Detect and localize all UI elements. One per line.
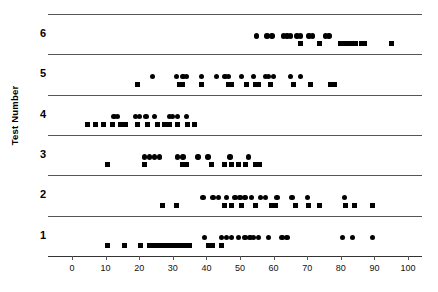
x-axis-tick-label: 40 [191,263,221,273]
data-point-circle [289,195,294,200]
plot-area: 654321 [48,14,422,256]
data-point-circle [342,195,347,200]
data-point-square [192,122,197,127]
x-axis-tick [374,256,375,260]
data-point-circle [227,154,232,159]
x-axis-tick [341,256,342,260]
data-point-square [362,41,367,46]
x-axis-tick [408,256,409,260]
data-point-square [298,41,303,46]
data-point-circle [288,74,293,79]
x-axis-tick-label: 0 [57,263,87,273]
data-point-square [199,82,204,87]
data-point-square [236,162,241,167]
data-point-square [243,162,248,167]
x-axis-tick [139,256,140,260]
data-point-circle [152,114,157,119]
data-point-square [85,122,90,127]
y-axis-tick-label-1: 1 [32,229,46,241]
data-point-square [160,203,165,208]
data-point-square [222,162,227,167]
data-point-square [389,41,394,46]
data-point-square [187,243,192,248]
data-point-circle [251,74,256,79]
data-point-circle [143,114,148,119]
data-point-circle [214,74,219,79]
data-point-circle [310,33,315,38]
band-row-2: 2 [48,175,422,215]
data-point-square [210,243,215,248]
data-point-circle [340,235,345,240]
data-point-circle [370,235,375,240]
band-row-6: 6 [48,14,422,54]
data-point-square [219,243,224,248]
data-point-circle [266,235,271,240]
data-point-circle [326,33,331,38]
data-point-square [105,243,110,248]
data-point-circle [254,33,259,38]
data-point-circle [236,235,241,240]
band-row-4: 4 [48,95,422,135]
y-axis-tick-label-5: 5 [32,67,46,79]
data-point-square [167,122,172,127]
x-axis-tick-label: 80 [326,263,356,273]
data-point-square [101,122,106,127]
data-point-circle [174,74,179,79]
data-point-square [253,203,258,208]
data-point-circle [224,195,229,200]
data-point-square [293,203,298,208]
data-point-square [174,203,179,208]
y-axis-title: Test Number [9,76,20,156]
data-point-circle [271,74,276,79]
data-point-circle [200,195,205,200]
data-point-square [257,162,262,167]
data-point-circle [226,74,231,79]
data-point-square [317,203,322,208]
data-point-square [308,82,313,87]
data-point-circle [246,154,251,159]
x-axis-tick [274,256,275,260]
data-point-square [244,82,249,87]
data-point-circle [229,235,234,240]
data-point-square [145,122,150,127]
x-axis-tick-label: 50 [225,263,255,273]
x-axis-tick [240,256,241,260]
data-point-circle [256,235,261,240]
data-point-square [229,82,234,87]
data-point-square [222,203,227,208]
band-row-1: 1 [48,216,422,256]
data-point-square [352,203,357,208]
x-axis-tick-label: 10 [91,263,121,273]
data-point-square [343,203,348,208]
data-point-square [180,82,185,87]
data-point-square [135,82,140,87]
data-point-square [291,82,296,87]
data-point-circle [242,195,247,200]
dot-plot-chart: Test Number 654321 010203040506070809010… [0,0,438,292]
data-point-square [229,203,234,208]
data-point-circle [180,154,185,159]
data-point-square [209,162,214,167]
data-point-circle [137,114,142,119]
x-axis-tick [307,256,308,260]
data-point-square [239,203,244,208]
data-point-square [370,203,375,208]
data-point-circle [288,33,293,38]
data-point-circle [274,195,279,200]
x-axis-tick-label: 70 [292,263,322,273]
data-point-square [184,162,189,167]
data-point-circle [205,154,210,159]
data-point-square [123,122,128,127]
data-point-circle [202,235,207,240]
band-row-3: 3 [48,135,422,175]
x-axis-tick-label: 20 [124,263,154,273]
band-row-5: 5 [48,54,422,94]
x-axis-tick [72,256,73,260]
data-point-circle [184,114,189,119]
data-point-square [229,162,234,167]
data-point-square [175,122,180,127]
data-point-circle [350,235,355,240]
x-axis-line [48,256,422,257]
data-point-square [155,122,160,127]
x-axis-tick-label: 30 [158,263,188,273]
